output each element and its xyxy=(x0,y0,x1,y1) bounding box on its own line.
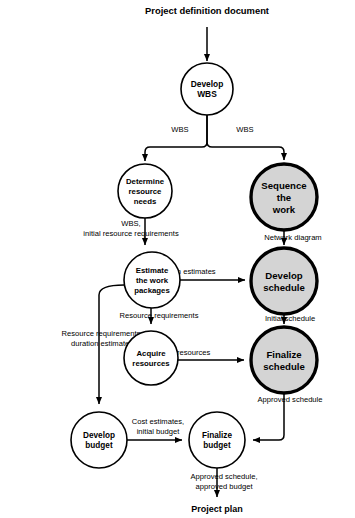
node-finalize-schedule[interactable]: Finalize schedule xyxy=(251,327,317,393)
node-develop-wbs[interactable]: Develop WBS xyxy=(181,63,233,115)
edge-label-wbs-initial-resource-requirements-line1: WBS, xyxy=(121,219,140,228)
edge-label-wbs-left: WBS xyxy=(171,125,188,134)
edge-label-resource-requirements: Resource requirements xyxy=(120,311,199,320)
node-sequence-the-work-label-line2: the xyxy=(277,192,291,203)
node-develop-schedule-shape[interactable] xyxy=(251,248,317,314)
node-estimate-work-packages-label-line1: Estimate xyxy=(136,266,169,275)
node-finalize-budget-label-line2: budget xyxy=(203,441,231,450)
node-develop-budget-label-line2: budget xyxy=(85,441,113,450)
flowchart-svg: WBS WBS WBS, initial resource requiremen… xyxy=(0,0,355,518)
node-determine-resource-needs-label-line2: resource xyxy=(129,187,163,196)
node-determine-resource-needs[interactable]: Determine resource needs xyxy=(118,164,172,218)
node-estimate-work-packages-label-line2: the work xyxy=(136,276,169,285)
node-estimate-work-packages[interactable]: Estimate the work packages xyxy=(124,252,180,308)
node-develop-schedule-label-line2: schedule xyxy=(263,282,305,293)
node-develop-budget-label-line1: Develop xyxy=(83,431,115,440)
edge-develop-wbs-to-determine-resource-needs xyxy=(145,115,207,161)
node-develop-schedule-label-line1: Develop xyxy=(265,270,302,281)
nodes-layer: Develop WBS Determine resource needs Seq… xyxy=(71,63,317,468)
node-acquire-resources-label-line1: Acquire xyxy=(136,349,166,358)
node-develop-schedule[interactable]: Develop schedule xyxy=(251,248,317,314)
edge-label-approved-schedule: Approved schedule xyxy=(257,395,322,404)
node-sequence-the-work[interactable]: Sequence the work xyxy=(251,164,317,230)
node-finalize-budget-shape[interactable] xyxy=(189,412,245,468)
node-develop-budget[interactable]: Develop budget xyxy=(71,412,127,468)
edge-label-wbs-right: WBS xyxy=(236,125,253,134)
node-estimate-work-packages-label-line3: packages xyxy=(134,286,170,295)
edge-label-approved-schedule-approved-budget-line1: Approved schedule, xyxy=(190,472,257,481)
edge-label-initial-schedule: Initial schedule xyxy=(265,314,315,323)
edge-label-cost-estimates-initial-budget-line2: initial budget xyxy=(137,427,181,436)
node-determine-resource-needs-label-line3: needs xyxy=(134,197,157,206)
node-acquire-resources[interactable]: Acquire resources xyxy=(124,331,178,385)
input-label: Project definition document xyxy=(145,5,269,16)
node-sequence-the-work-label-line1: Sequence xyxy=(261,180,306,191)
node-finalize-schedule-label-line2: schedule xyxy=(263,361,305,372)
node-develop-budget-shape[interactable] xyxy=(71,412,127,468)
node-develop-wbs-label-line1: Develop xyxy=(191,79,224,89)
edge-label-wbs-initial-resource-requirements-line2: initial resource requirements xyxy=(83,229,179,238)
edge-label-network-diagram: Network diagram xyxy=(264,233,321,242)
node-determine-resource-needs-label-line1: Determine xyxy=(126,177,165,186)
edge-develop-wbs-to-sequence-the-work xyxy=(207,115,284,160)
node-acquire-resources-shape[interactable] xyxy=(124,331,178,385)
node-acquire-resources-label-line2: resources xyxy=(132,359,170,368)
edge-label-cost-estimates-initial-budget-line1: Cost estimates, xyxy=(132,417,184,426)
edge-label-approved-schedule-approved-budget-line2: approved budget xyxy=(195,482,253,491)
edge-label-resource-requirements-duration-estimates-line2: duration estimates xyxy=(71,339,133,348)
node-develop-wbs-label-line2: WBS xyxy=(197,89,217,99)
node-sequence-the-work-label-line3: work xyxy=(272,204,296,215)
node-finalize-schedule-shape[interactable] xyxy=(251,327,317,393)
output-label: Project plan xyxy=(191,504,243,514)
node-finalize-budget-label-line1: Finalize xyxy=(202,431,232,440)
node-finalize-budget[interactable]: Finalize budget xyxy=(189,412,245,468)
edge-label-resource-requirements-duration-estimates-line1: Resource requirements, xyxy=(61,329,142,338)
node-finalize-schedule-label-line1: Finalize xyxy=(266,349,301,360)
flowchart-canvas: WBS WBS WBS, initial resource requiremen… xyxy=(0,0,355,518)
